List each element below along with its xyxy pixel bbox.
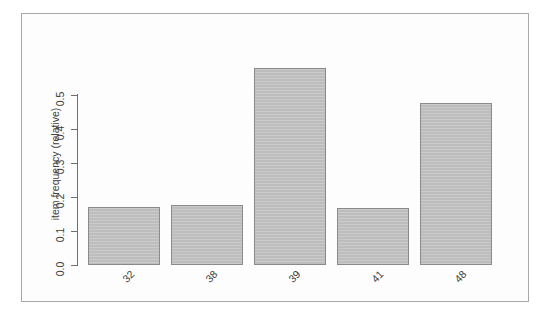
x-axis-tick-label: 41: [363, 262, 391, 290]
y-axis-tick-label-text: 0.3: [54, 160, 66, 175]
item-frequency-plot: item frequency (relative) 0.0 0.1 0.2 0.…: [0, 0, 551, 319]
y-axis-tick: [71, 129, 77, 130]
y-axis-tick-label: 0.0: [52, 259, 68, 271]
bar[interactable]: [337, 208, 409, 266]
y-axis-tick-label-text: 0.0: [54, 262, 66, 277]
y-axis-tick-label-text: 0.4: [54, 126, 66, 141]
x-axis-tick-label: 48: [446, 262, 474, 290]
x-axis-tick-label: 39: [280, 262, 308, 290]
x-axis-tick-label: 38: [197, 262, 225, 290]
y-axis-tick-label: 0.5: [52, 89, 68, 101]
x-axis-tick-label: 32: [114, 262, 142, 290]
y-axis-tick-label: 0.4: [52, 123, 68, 135]
y-axis-tick-label-text: 0.1: [54, 228, 66, 243]
y-axis-tick: [71, 197, 77, 198]
y-axis-tick: [71, 265, 77, 266]
y-axis-tick-label: 0.1: [52, 225, 68, 237]
y-axis-tick-label-text: 0.2: [54, 194, 66, 209]
y-axis-tick-label: 0.3: [52, 157, 68, 169]
bar[interactable]: [88, 207, 160, 266]
y-axis-tick-label: 0.2: [52, 191, 68, 203]
y-axis-tick: [71, 231, 77, 232]
y-axis-line: [77, 94, 78, 266]
bar[interactable]: [254, 68, 326, 266]
y-axis-tick: [71, 95, 77, 96]
y-axis-tick-label-text: 0.5: [54, 92, 66, 107]
y-axis-tick: [71, 163, 77, 164]
bar[interactable]: [420, 103, 492, 266]
screenshot-root: item frequency (relative) 0.0 0.1 0.2 0.…: [0, 0, 551, 319]
bar[interactable]: [171, 205, 243, 265]
